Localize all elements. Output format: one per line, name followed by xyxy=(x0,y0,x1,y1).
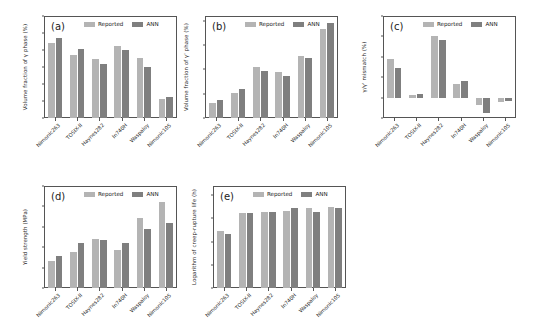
bar-ann xyxy=(144,229,151,288)
y-axis-tick-mark xyxy=(203,45,206,46)
bar-ann xyxy=(122,243,129,288)
y-axis-tick-mark xyxy=(211,264,214,265)
y-axis-tick-mark xyxy=(211,241,214,242)
bar-ann xyxy=(313,212,320,288)
x-axis-tick-mark xyxy=(216,118,217,121)
y-axis-tick-mark xyxy=(42,267,45,268)
bar-reported xyxy=(239,213,246,288)
legend-item-ann[interactable]: ANN xyxy=(471,21,497,27)
bar-reported xyxy=(114,250,121,288)
x-axis-tick-label: Nimonic105 xyxy=(286,122,333,169)
y-axis-tick-mark xyxy=(42,16,45,17)
x-axis-tick-mark xyxy=(99,118,100,121)
x-axis-tick-mark xyxy=(77,288,78,291)
x-axis-tick-mark xyxy=(144,118,145,121)
x-axis-tick-mark xyxy=(77,118,78,121)
bar-ann xyxy=(417,94,424,98)
x-axis-tick-mark xyxy=(55,118,56,121)
legend-label-reported: Reported xyxy=(98,191,124,197)
bar-reported xyxy=(409,95,416,98)
x-axis-tick-label: Nimonic105 xyxy=(464,122,511,169)
legend-item-ann[interactable]: ANN xyxy=(293,21,319,27)
x-axis-tick-label: Nimonic263 xyxy=(15,292,62,336)
legend-item-reported[interactable]: Reported xyxy=(84,191,124,197)
legend-item-reported[interactable]: Reported xyxy=(245,21,285,27)
legend-label-reported: Reported xyxy=(437,21,463,27)
panel-tag: (c) xyxy=(390,21,403,32)
bar-reported xyxy=(209,103,216,118)
x-axis-tick-label: Haynes282 xyxy=(59,122,106,169)
panel-tag: (a) xyxy=(51,21,65,32)
bar-reported xyxy=(137,58,144,118)
x-axis-tick-mark xyxy=(224,288,225,291)
x-axis-tick-label: Haynes282 xyxy=(398,122,445,169)
y-axis-tick-mark xyxy=(381,16,384,17)
legend-label-reported: Reported xyxy=(267,191,293,197)
legend-label-ann: ANN xyxy=(307,21,319,27)
y-axis-label: Volume fraction of γ' phase (%) xyxy=(183,16,189,118)
legend: ReportedANN xyxy=(423,21,498,27)
x-axis-tick-mark xyxy=(260,118,261,121)
bar-ann xyxy=(122,50,129,118)
bar-ann xyxy=(395,68,402,98)
bar-ann xyxy=(261,71,268,118)
legend-item-reported[interactable]: Reported xyxy=(253,191,293,197)
x-axis-tick-mark xyxy=(416,118,417,121)
bar-ann xyxy=(283,76,290,118)
bar-ann xyxy=(291,208,298,288)
bar-reported xyxy=(498,98,505,102)
bar-ann xyxy=(335,208,342,288)
legend-label-reported: Reported xyxy=(98,21,124,27)
legend-item-ann[interactable]: ANN xyxy=(132,21,158,27)
y-axis-tick-mark xyxy=(211,288,214,289)
bar-ann xyxy=(439,40,446,98)
x-axis-tick-mark xyxy=(144,288,145,291)
panel-tag: (e) xyxy=(220,191,234,202)
bar-reported xyxy=(159,202,166,288)
bar-ann xyxy=(166,97,173,118)
x-axis-tick-mark xyxy=(305,118,306,121)
y-axis-label: γ/γ' mismatch (%) xyxy=(361,16,367,118)
y-axis-tick-mark xyxy=(42,288,45,289)
bar-reported xyxy=(298,56,305,118)
legend-item-reported[interactable]: Reported xyxy=(84,21,124,27)
x-axis-tick-label: Haynes282 xyxy=(59,292,106,336)
bar-reported xyxy=(231,93,238,119)
bar-ann xyxy=(100,240,107,288)
y-axis-tick-mark xyxy=(203,20,206,21)
y-axis-tick-mark xyxy=(42,33,45,34)
bar-ann xyxy=(269,212,276,288)
y-axis-tick-mark xyxy=(42,247,45,248)
y-axis-tick-mark xyxy=(42,84,45,85)
legend-swatch-reported xyxy=(245,22,256,27)
y-axis-tick-mark xyxy=(381,77,384,78)
x-axis-tick-mark xyxy=(122,288,123,291)
y-axis-tick-mark xyxy=(381,56,384,57)
legend-item-ann[interactable]: ANN xyxy=(301,191,327,197)
bar-reported xyxy=(114,46,121,118)
legend: ReportedANN xyxy=(84,21,159,27)
legend-item-ann[interactable]: ANN xyxy=(132,191,158,197)
bar-ann xyxy=(305,58,312,118)
x-axis-tick-mark xyxy=(313,288,314,291)
panel-tag: (b) xyxy=(212,21,226,32)
x-axis-tick-label: Haynes282 xyxy=(220,122,267,169)
x-axis-tick-mark xyxy=(335,288,336,291)
bar-reported xyxy=(217,231,224,288)
x-axis-tick-mark xyxy=(438,118,439,121)
y-axis-tick-mark xyxy=(42,50,45,51)
bar-ann xyxy=(217,100,224,118)
y-axis-tick-mark xyxy=(203,118,206,119)
x-axis-tick-mark xyxy=(246,288,247,291)
legend-item-reported[interactable]: Reported xyxy=(423,21,463,27)
bar-reported xyxy=(159,99,166,118)
bar-ann xyxy=(239,89,246,118)
bar-reported xyxy=(70,252,77,288)
x-axis-tick-mark xyxy=(99,288,100,291)
bar-reported xyxy=(48,43,55,118)
x-axis-tick-mark xyxy=(461,118,462,121)
bar-ann xyxy=(225,234,232,288)
x-axis-tick-mark xyxy=(283,118,284,121)
bar-reported xyxy=(92,239,99,288)
bar-ann xyxy=(247,213,254,288)
